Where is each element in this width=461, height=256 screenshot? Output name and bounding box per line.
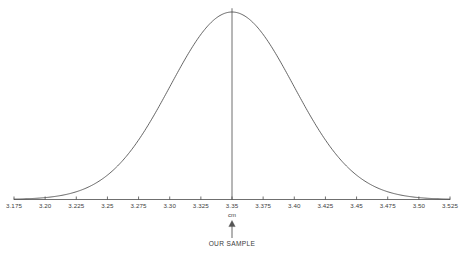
x-axis-tick-label: 3.45: [350, 202, 362, 210]
x-axis-tick-label: 3.325: [193, 202, 209, 210]
x-axis-tick-label: 3.30: [163, 202, 175, 210]
x-axis-tick-label: 3.50: [413, 202, 425, 210]
x-axis-tick-label: 3.175: [6, 202, 22, 210]
up-arrow-icon: [229, 221, 235, 239]
x-axis-tick-label: 3.475: [380, 202, 396, 210]
x-axis-tick-label: 3.35: [226, 202, 238, 210]
our-sample-annotation-label: OUR SAMPLE: [209, 239, 256, 248]
x-axis-tick-label: 3.20: [39, 202, 51, 210]
x-axis-tick-label: 3.375: [255, 202, 271, 210]
x-axis-tick-label: 3.425: [317, 202, 333, 210]
x-axis-tick-label: 3.225: [68, 202, 84, 210]
normal-distribution-chart: 3.1753.203.2253.253.2753.303.3253.353.37…: [0, 0, 461, 256]
axis-unit-label: cm: [228, 211, 236, 219]
x-axis-tick-label: 3.40: [288, 202, 300, 210]
x-axis-tick-label: 3.525: [442, 202, 458, 210]
x-axis-tick-label: 3.25: [101, 202, 113, 210]
x-axis-tick-label: 3.275: [131, 202, 147, 210]
